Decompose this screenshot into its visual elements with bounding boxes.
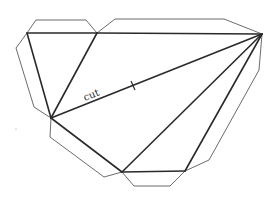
edge-c-f [185, 34, 262, 171]
scan-speck [15, 128, 16, 129]
edge-a-d [27, 33, 51, 118]
polyhedron-net-diagram: cut [0, 0, 280, 199]
cut-label: cut [82, 87, 101, 103]
tab-a-b [27, 20, 97, 33]
glue-tabs [16, 19, 262, 186]
tab-a-d [16, 33, 51, 118]
tab-b-c [97, 19, 262, 34]
tab-d-e [50, 118, 122, 177]
cut-line [51, 34, 262, 118]
edge-e-f [122, 171, 185, 172]
fold-lines [27, 33, 262, 172]
edge-b-d [51, 33, 97, 118]
cut-line-group: cut [51, 34, 262, 118]
tab-e-f [122, 171, 185, 186]
edge-b-c [97, 33, 262, 34]
